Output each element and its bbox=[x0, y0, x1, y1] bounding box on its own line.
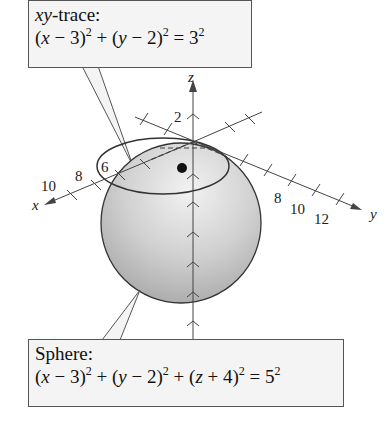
x-axis-label: x bbox=[31, 197, 39, 213]
xy-trace-equation: (x − 3)2 + (y − 2)2 = 32 bbox=[35, 26, 245, 49]
z-axis-label: z bbox=[187, 69, 194, 85]
x-tick-6: 6 bbox=[101, 159, 109, 175]
x-tick-10: 10 bbox=[41, 178, 56, 194]
y-axis-label: y bbox=[368, 206, 377, 222]
xy-trace-title: xy-trace: bbox=[35, 3, 245, 26]
sphere-title: Sphere: bbox=[35, 342, 337, 365]
xy-trace-callout: xy-trace: (x − 3)2 + (y − 2)2 = 32 bbox=[28, 0, 252, 68]
sphere-equation: (x − 3)2 + (y − 2)2 + (z + 4)2 = 52 bbox=[35, 365, 337, 388]
y-tick-8: 8 bbox=[274, 190, 282, 206]
sphere-callout: Sphere: (x − 3)2 + (y − 2)2 + (z + 4)2 =… bbox=[28, 339, 344, 407]
x-tick-8: 8 bbox=[75, 168, 83, 184]
sphere-callout-pointer bbox=[102, 290, 140, 340]
x-axis-arrow bbox=[44, 197, 56, 205]
y-tick-10: 10 bbox=[290, 201, 305, 217]
x-axis-negative bbox=[193, 112, 262, 142]
y-tick-12: 12 bbox=[314, 211, 329, 227]
z-tick-2: 2 bbox=[174, 109, 182, 125]
trace-center-point bbox=[177, 163, 187, 173]
y-axis-arrow bbox=[350, 203, 362, 210]
